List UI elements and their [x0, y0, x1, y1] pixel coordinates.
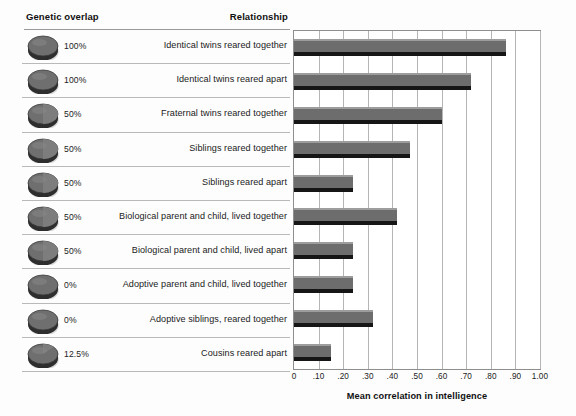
relationship-label: Cousins reared apart — [201, 348, 287, 358]
bar-face — [294, 208, 397, 221]
relationship-label: Identical twins reared apart — [176, 74, 287, 84]
genetic-overlap-value: 50% — [64, 212, 82, 222]
genetic-overlap-value: 100% — [64, 41, 86, 51]
genetic-overlap-value: 50% — [64, 144, 82, 154]
bar-face — [294, 73, 471, 86]
bar-face — [294, 242, 353, 255]
relationship-label: Biological parent and child, lived apart — [132, 245, 287, 255]
table-row: 50%Siblings reared together — [22, 133, 290, 167]
x-axis-tick-label: .10 — [313, 372, 325, 381]
bar-shadow — [294, 120, 442, 124]
bar-slot — [294, 166, 540, 200]
bar-shadow — [294, 357, 331, 361]
table-row: 50%Biological parent and child, lived to… — [22, 201, 290, 235]
bar-chart — [293, 30, 541, 370]
x-axis-tick-label: .70 — [460, 372, 472, 381]
bar-face — [294, 39, 506, 52]
bar-face — [294, 107, 442, 120]
relationship-label: Adoptive parent and child, lived togethe… — [123, 279, 287, 289]
bar-slot — [294, 268, 540, 302]
bar[interactable] — [294, 175, 353, 192]
bar-face — [294, 310, 373, 323]
bar-slot — [294, 65, 540, 99]
column-header-genetic-overlap: Genetic overlap — [26, 11, 99, 22]
half-disc-icon — [26, 137, 60, 163]
table-body: 100%Identical twins reared together100%I… — [22, 30, 290, 372]
x-axis-tick-label: .80 — [485, 372, 497, 381]
x-axis-tick-label: 1.00 — [532, 372, 548, 381]
x-axis-tick-label: .40 — [387, 372, 399, 381]
empty-disc-icon — [26, 273, 60, 299]
bar-face — [294, 344, 331, 357]
relationship-label: Identical twins reared together — [164, 40, 287, 50]
table-row: 50%Fraternal twins reared together — [22, 98, 290, 132]
bar[interactable] — [294, 242, 353, 259]
genetic-overlap-value: 12.5% — [64, 349, 89, 359]
x-axis-tick-label: .60 — [436, 372, 448, 381]
bar[interactable] — [294, 310, 373, 327]
bar-face — [294, 175, 353, 188]
bar-shadow — [294, 154, 410, 158]
genetic-overlap-value: 50% — [64, 246, 82, 256]
relationship-table: Genetic overlap Relationship 100%Identic… — [22, 8, 290, 388]
genetic-overlap-value: 50% — [64, 178, 82, 188]
relationship-label: Siblings reared apart — [202, 177, 287, 187]
table-row: 100%Identical twins reared apart — [22, 64, 290, 98]
bar[interactable] — [294, 73, 471, 90]
bar-slot — [294, 200, 540, 234]
full-disc-icon — [26, 34, 60, 60]
bar-slot — [294, 132, 540, 166]
bar[interactable] — [294, 276, 353, 293]
genetic-overlap-value: 0% — [64, 315, 77, 325]
genetic-overlap-value: 100% — [64, 75, 86, 85]
bar-slot — [294, 234, 540, 268]
half-disc-icon — [26, 205, 60, 231]
table-row: 50%Biological parent and child, lived ap… — [22, 235, 290, 269]
eighth-disc-icon — [26, 342, 60, 368]
bar-slot — [294, 99, 540, 133]
relationship-label: Adoptive siblings, reared together — [150, 314, 287, 324]
bar[interactable] — [294, 141, 410, 158]
bar-shadow — [294, 255, 353, 259]
bar-shadow — [294, 289, 353, 293]
bar-face — [294, 276, 353, 289]
gridline — [540, 31, 541, 369]
bar-slot — [294, 335, 540, 369]
bar-face — [294, 141, 410, 154]
x-axis-tick-label: 0 — [292, 372, 297, 381]
bar[interactable] — [294, 39, 506, 56]
bar-slot — [294, 31, 540, 65]
x-axis-title: Mean correlation in intelligence — [293, 391, 541, 401]
bar-slot — [294, 301, 540, 335]
bar-shadow — [294, 323, 373, 327]
half-disc-icon — [26, 102, 60, 128]
bar-shadow — [294, 188, 353, 192]
relationship-label: Siblings reared together — [189, 143, 287, 153]
full-disc-icon — [26, 68, 60, 94]
bar-shadow — [294, 86, 471, 90]
table-row: 12.5%Cousins reared apart — [22, 338, 290, 372]
plot-area — [293, 30, 541, 370]
empty-disc-icon — [26, 308, 60, 334]
half-disc-icon — [26, 171, 60, 197]
table-row: 100%Identical twins reared together — [22, 30, 290, 64]
bar[interactable] — [294, 107, 442, 124]
table-row: 0%Adoptive parent and child, lived toget… — [22, 269, 290, 303]
x-axis-tick-label: .20 — [337, 372, 349, 381]
half-disc-icon — [26, 239, 60, 265]
x-axis-tick-label: .30 — [362, 372, 374, 381]
table-row: 50%Siblings reared apart — [22, 167, 290, 201]
table-row: 0%Adoptive siblings, reared together — [22, 304, 290, 338]
relationship-label: Biological parent and child, lived toget… — [119, 211, 287, 221]
table-header: Genetic overlap Relationship — [22, 8, 290, 30]
x-axis-tick-label: .50 — [411, 372, 423, 381]
column-header-relationship: Relationship — [230, 11, 288, 22]
bar[interactable] — [294, 344, 331, 361]
x-axis: Mean correlation in intelligence 0.10.20… — [293, 370, 541, 416]
bar[interactable] — [294, 208, 397, 225]
genetic-overlap-intelligence-figure: Genetic overlap Relationship 100%Identic… — [0, 0, 576, 416]
x-axis-tick-label: .90 — [510, 372, 522, 381]
genetic-overlap-value: 0% — [64, 280, 77, 290]
relationship-label: Fraternal twins reared together — [161, 108, 287, 118]
bar-shadow — [294, 52, 506, 56]
